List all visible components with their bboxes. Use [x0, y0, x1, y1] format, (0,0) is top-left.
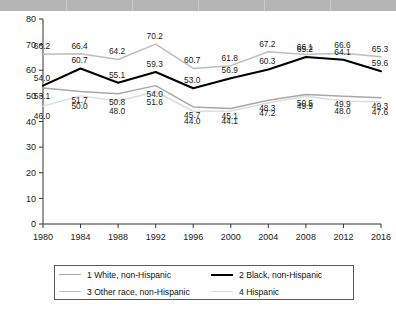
- x-tick-label: 2012: [333, 232, 353, 242]
- chart-screenshot: 0102030405060708019801984198819921996200…: [0, 0, 396, 314]
- legend-label-black: 2 Black, non-Hispanic: [239, 270, 322, 280]
- data-label: 66.2: [34, 41, 51, 51]
- x-tick-label: 2000: [221, 232, 241, 242]
- y-tick-label: 10: [26, 194, 36, 204]
- data-label: 61.8: [222, 53, 239, 63]
- data-label: 50.0: [71, 101, 88, 111]
- series-line-2: [43, 57, 381, 88]
- legend-item-hispanic[interactable]: 4 Hispanic: [211, 287, 359, 297]
- x-tick-label: 2016: [371, 232, 391, 242]
- data-label: 59.3: [147, 59, 164, 69]
- legend-label-white: 1 White, non-Hispanic: [87, 270, 171, 280]
- data-label: 60.3: [259, 56, 276, 66]
- data-label: 46.0: [34, 111, 51, 121]
- x-tick-label: 1980: [33, 232, 53, 242]
- data-label: 67.2: [259, 39, 276, 49]
- legend-line-swatch-black: [211, 274, 233, 276]
- x-tick-label: 1988: [108, 232, 128, 242]
- data-label: 59.6: [372, 58, 389, 68]
- legend-item-black[interactable]: 2 Black, non-Hispanic: [211, 270, 359, 280]
- data-label: 60.7: [184, 55, 201, 65]
- legend-label-hispanic: 4 Hispanic: [239, 287, 279, 297]
- legend-line-swatch-white: [59, 274, 81, 275]
- data-label: 70.2: [147, 31, 164, 41]
- data-label: 53.1: [34, 91, 51, 101]
- data-label: 44.0: [184, 116, 201, 126]
- plot-canvas: 0102030405060708019801984198819921996200…: [0, 11, 396, 259]
- y-tick-label: 0: [31, 219, 36, 229]
- y-tick-label: 20: [26, 168, 36, 178]
- data-label: 54.0: [34, 73, 51, 83]
- data-label: 48.0: [334, 106, 351, 116]
- data-label: 47.6: [372, 107, 389, 117]
- data-label: 48.0: [109, 106, 126, 116]
- data-label: 44.1: [222, 116, 239, 126]
- x-tick-label: 2008: [296, 232, 316, 242]
- x-tick-label: 1992: [146, 232, 166, 242]
- x-tick-label: 1984: [71, 232, 91, 242]
- data-label: 60.7: [71, 55, 88, 65]
- line-chart: 0102030405060708019801984198819921996200…: [0, 11, 396, 259]
- data-label: 66.6: [334, 40, 351, 50]
- data-label: 51.6: [147, 97, 164, 107]
- top-banner: [0, 0, 396, 11]
- chart-legend: 1 White, non-Hispanic 2 Black, non-Hispa…: [54, 265, 354, 300]
- data-label: 66.1: [297, 42, 314, 52]
- data-label: 47.2: [259, 108, 276, 118]
- legend-label-other-race: 3 Other race, non-Hispanic: [87, 287, 190, 297]
- data-label: 64.2: [109, 46, 126, 56]
- data-label: 65.3: [372, 44, 389, 54]
- data-label: 66.4: [71, 41, 88, 51]
- legend-line-swatch-hispanic: [211, 291, 233, 292]
- legend-item-white[interactable]: 1 White, non-Hispanic: [59, 270, 211, 280]
- data-label: 53.0: [184, 75, 201, 85]
- data-label: 55.1: [109, 70, 126, 80]
- y-tick-label: 30: [26, 142, 36, 152]
- x-tick-label: 1996: [183, 232, 203, 242]
- y-tick-label: 80: [26, 14, 36, 24]
- legend-item-other-race[interactable]: 3 Other race, non-Hispanic: [59, 287, 211, 297]
- data-label: 49.9: [297, 101, 314, 111]
- data-label: 56.9: [222, 65, 239, 75]
- legend-line-swatch-other-race: [59, 291, 81, 292]
- x-tick-label: 2004: [258, 232, 278, 242]
- series-line-3: [43, 44, 381, 68]
